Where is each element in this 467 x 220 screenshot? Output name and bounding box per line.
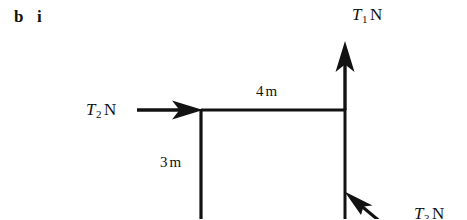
force-arrow-t1 xyxy=(336,41,355,110)
figure-canvas: bi T1N T2N T3N 4m 3m xyxy=(0,0,467,219)
force-label-t2-symbol: T xyxy=(86,100,95,119)
dimension-label-4m-unit: m xyxy=(266,83,278,99)
force-label-t3-subscript: 3 xyxy=(424,212,430,219)
dimension-label-3m: 3m xyxy=(160,155,181,170)
force-label-t2: T2N xyxy=(86,101,116,120)
force-label-t2-unit: N xyxy=(104,100,116,119)
dimension-label-3m-unit: m xyxy=(170,154,182,170)
dimension-label-4m-value: 4 xyxy=(256,83,264,99)
dimension-label-4m: 4m xyxy=(256,84,277,99)
force-label-t3: T3N xyxy=(414,205,444,219)
force-label-t3-unit: N xyxy=(432,204,444,219)
force-label-t3-symbol: T xyxy=(414,204,423,219)
force-label-t2-subscript: 2 xyxy=(96,108,102,120)
force-arrow-t3 xyxy=(345,192,396,220)
force-label-t1-subscript: 1 xyxy=(362,13,368,25)
part-label-letter: b xyxy=(14,7,24,26)
force-label-t1: T1N xyxy=(352,6,382,25)
force-label-t1-symbol: T xyxy=(352,5,361,24)
dimension-label-3m-value: 3 xyxy=(160,154,168,170)
frame-lines xyxy=(201,109,346,219)
force-label-t1-unit: N xyxy=(370,5,382,24)
part-label-roman: i xyxy=(37,7,42,26)
part-label: bi xyxy=(14,8,42,25)
force-arrow-t2 xyxy=(137,101,203,120)
force-diagram-svg xyxy=(0,0,467,219)
